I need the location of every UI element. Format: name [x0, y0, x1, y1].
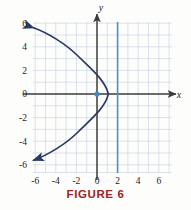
- plot-area: 6 4 2 0 -2 -4 -6 -6 -4 -2 0 2 4 6 x y: [0, 0, 191, 186]
- y-tick-label-4: 4: [22, 42, 27, 52]
- y-tick-label-neg2: -2: [19, 113, 27, 123]
- y-tick-label-6: 6: [22, 19, 27, 29]
- x-tick-label-0: 0: [95, 176, 100, 186]
- x-tick-label-neg2: -2: [72, 176, 80, 186]
- x-tick-label-2: 2: [115, 176, 120, 186]
- x-tick-label-neg4: -4: [52, 176, 60, 186]
- y-tick-label-2: 2: [22, 66, 27, 76]
- figure-container: 6 4 2 0 -2 -4 -6 -6 -4 -2 0 2 4 6 x y FI…: [0, 0, 191, 210]
- origin-point-marker: [94, 91, 99, 96]
- x-tick-label-6: 6: [156, 176, 161, 186]
- x-tick-label-neg6: -6: [31, 176, 39, 186]
- y-axis-label: y: [98, 2, 104, 13]
- x-axis-label: x: [176, 89, 182, 100]
- graph-svg: 6 4 2 0 -2 -4 -6 -6 -4 -2 0 2 4 6 x y: [0, 0, 191, 186]
- y-tick-label-0: 0: [22, 89, 27, 99]
- figure-caption: FIGURE 6: [0, 188, 191, 200]
- y-tick-label-neg6: -6: [19, 160, 27, 170]
- x-tick-label-4: 4: [136, 176, 141, 186]
- y-tick-label-neg4: -4: [19, 137, 27, 147]
